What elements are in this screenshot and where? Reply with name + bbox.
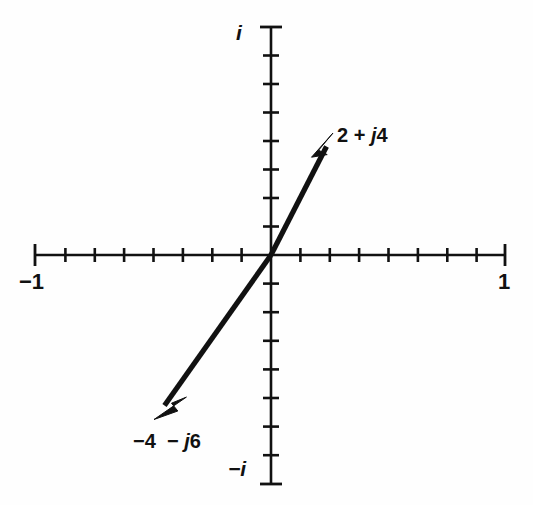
vector-lower-minus4-minus-j6	[154, 255, 271, 420]
vector-lower-shaft	[165, 255, 272, 406]
vector-upper-operator: +	[354, 124, 366, 146]
vector-upper-2-plus-j4	[271, 133, 333, 255]
vector-lower-imag-part: 6	[190, 430, 201, 452]
vector-upper-imag-part: 4	[377, 124, 388, 146]
phasor-plot-svg	[0, 0, 533, 505]
real-axis-positive-label: 1	[498, 269, 510, 295]
vector-lower-label: −4 − j6	[133, 430, 201, 453]
vector-upper-arrowhead	[312, 133, 334, 157]
vector-upper-shaft	[271, 147, 327, 256]
complex-plane-figure: i −i −1 1 2 + j4 −4 − j6	[0, 0, 533, 505]
vector-lower-real-part: −4	[133, 430, 156, 452]
vector-upper-real-part: 2	[337, 124, 348, 146]
imaginary-axis-negative-label: −i	[228, 457, 246, 481]
imaginary-axis-positive-label: i	[236, 21, 242, 45]
vector-lower-operator: −	[167, 430, 179, 452]
vector-upper-label: 2 + j4	[337, 124, 388, 147]
real-axis-negative-label: −1	[19, 269, 44, 295]
